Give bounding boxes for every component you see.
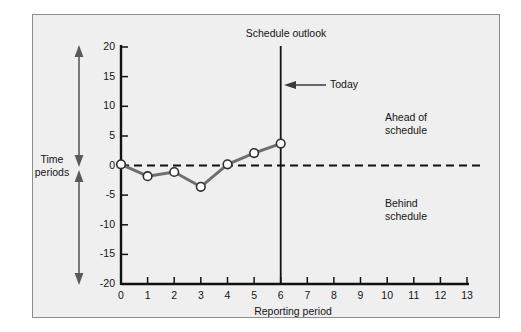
- x-tick-label: 13: [455, 289, 479, 301]
- ahead-of-schedule-label-line1: Ahead of: [385, 111, 427, 123]
- time-periods-arrow-up: [75, 45, 84, 167]
- data-point: [223, 160, 232, 169]
- today-arrow: [284, 81, 326, 89]
- y-tick-label: 15: [85, 70, 115, 82]
- x-tick-label: 4: [216, 289, 240, 301]
- x-tick-label: 8: [322, 289, 346, 301]
- y-axis-label-line1: Time: [33, 153, 71, 165]
- x-tick-label: 11: [402, 289, 426, 301]
- today-label: Today: [330, 78, 358, 90]
- ahead-of-schedule-label-line2: schedule: [385, 124, 427, 136]
- y-tick-label: -5: [85, 188, 115, 200]
- y-tick-label: 10: [85, 99, 115, 111]
- data-point: [170, 168, 179, 177]
- x-tick-label: 0: [109, 289, 133, 301]
- x-tick-label: 5: [242, 289, 266, 301]
- y-tick-label: -20: [85, 277, 115, 289]
- x-tick-label: 2: [162, 289, 186, 301]
- x-tick-label: 10: [375, 289, 399, 301]
- chart-title: Schedule outlook: [231, 27, 341, 39]
- data-point: [197, 183, 206, 192]
- data-point: [276, 139, 285, 148]
- x-tick-label: 6: [269, 289, 293, 301]
- behind-schedule-label-line2: schedule: [385, 210, 427, 222]
- data-point: [250, 149, 259, 158]
- x-tick-label: 1: [136, 289, 160, 301]
- y-axis-label-line2: periods: [33, 166, 71, 178]
- chart-panel: Schedule outlook Today Ahead of schedule…: [32, 14, 500, 318]
- y-tick-label: 0: [85, 159, 115, 171]
- y-tick-label: 20: [85, 40, 115, 52]
- x-tick-label: 9: [349, 289, 373, 301]
- y-tick-label: -10: [85, 218, 115, 230]
- behind-schedule-label-line1: Behind: [385, 197, 418, 209]
- x-tick-label: 12: [428, 289, 452, 301]
- x-axis-title: Reporting period: [223, 305, 363, 317]
- y-tick-label: 5: [85, 129, 115, 141]
- data-point: [143, 172, 152, 181]
- time-periods-arrow-down: [75, 170, 84, 285]
- x-tick-label: 7: [295, 289, 319, 301]
- y-tick-label: -15: [85, 247, 115, 259]
- x-tick-label: 3: [189, 289, 213, 301]
- data-point: [117, 160, 126, 169]
